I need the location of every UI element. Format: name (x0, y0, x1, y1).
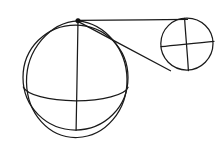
diagram-canvas (0, 0, 224, 141)
geometry-figure: Sphere with tangent cone projecting to a… (0, 0, 224, 141)
apex-point-marker (76, 19, 81, 24)
